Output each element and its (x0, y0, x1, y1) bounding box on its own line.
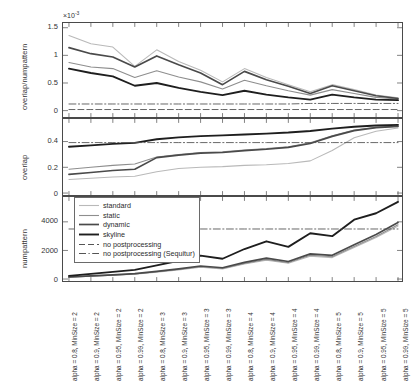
figure-root: ×10-3 overlap/numpattern overlap numpatt… (0, 0, 411, 386)
legend-label: dynamic (103, 220, 130, 229)
x-tick-label: alpha = 0.95, MinSize = 2 (115, 309, 122, 381)
legend-swatch-icon (78, 249, 100, 258)
legend-item-static[interactable]: static (78, 211, 195, 221)
legend: standardstaticdynamicskylineno postproce… (74, 197, 200, 263)
legend-label: standard (103, 201, 131, 210)
x-tick-label: alpha = 0.95, MinSize = 5 (380, 309, 387, 381)
x-tick-label: alpha = 0.95, MinSize = 4 (291, 309, 298, 381)
axis-ticks (69, 119, 398, 195)
series-dynamic (69, 48, 398, 99)
y-tick-0-0: 0 (24, 106, 58, 115)
y-tick-1-2: 0.4 (24, 136, 58, 145)
legend-swatch-icon (78, 240, 100, 249)
legend-item-standard[interactable]: standard (78, 201, 195, 211)
y-tick-0-1: 0.5 (24, 78, 58, 87)
x-tick-label: alpha = 0.99, MinSize = 5 (402, 309, 409, 381)
y-tick-1-0: 0 (24, 189, 58, 198)
y-exponent-top: ×10-3 (63, 10, 79, 19)
x-tick-label: alpha = 0.8, MinSize = 2 (71, 312, 78, 381)
x-tick-label: alpha = 0.95, MinSize = 3 (203, 309, 210, 381)
panel-overlap (62, 118, 403, 196)
legend-swatch-icon (78, 230, 100, 239)
legend-label: no postprocessing (103, 240, 161, 249)
x-tick-label: alpha = 0.8, MinSize = 4 (247, 312, 254, 381)
x-tick-label: alpha = 0.99, MinSize = 2 (137, 309, 144, 381)
series-no-postprocessing-sequitur- (69, 103, 398, 104)
x-tick-label: alpha = 0.8, MinSize = 3 (159, 312, 166, 381)
legend-label: skyline (103, 230, 125, 239)
x-tick-label: alpha = 0.9, MinSize = 5 (357, 312, 364, 381)
y-tick-2-2: 4000 (24, 216, 58, 225)
x-tick-label: alpha = 0.99, MinSize = 4 (313, 309, 320, 381)
y-tick-0-3: 1.5 (24, 22, 58, 31)
legend-label: no postprocessing (Sequitur) (103, 249, 195, 258)
x-tick-label: alpha = 0.9, MinSize = 3 (181, 312, 188, 381)
plot-area-middle (63, 119, 402, 195)
axis-ticks (69, 23, 398, 117)
legend-item-dynamic[interactable]: dynamic (78, 220, 195, 230)
series-skyline (69, 125, 398, 147)
y-axis-ticks (63, 142, 402, 194)
x-tick-label: alpha = 0.99, MinSize = 3 (225, 309, 232, 381)
legend-swatch-icon (78, 220, 100, 229)
y-tick-0-2: 1 (24, 50, 58, 59)
y-tick-2-0: 0 (24, 275, 58, 284)
legend-item-no-postprocessing-sequitur-[interactable]: no postprocessing (Sequitur) (78, 249, 195, 259)
y-tick-2-1: 2000 (24, 246, 58, 255)
plot-area-top (63, 23, 402, 117)
legend-item-no-postprocessing[interactable]: no postprocessing (78, 239, 195, 249)
x-tick-label: alpha = 0.9, MinSize = 2 (93, 312, 100, 381)
panel-overlap-per-numpattern (62, 22, 403, 118)
x-tick-label: alpha = 0.9, MinSize = 4 (269, 312, 276, 381)
y-tick-1-1: 0.2 (24, 163, 58, 172)
x-tick-label: alpha = 0.8, MinSize = 5 (335, 312, 342, 381)
legend-item-skyline[interactable]: skyline (78, 230, 195, 240)
series-standard (69, 35, 398, 97)
legend-label: static (103, 211, 120, 220)
legend-swatch-icon (78, 201, 100, 210)
legend-swatch-icon (78, 211, 100, 220)
